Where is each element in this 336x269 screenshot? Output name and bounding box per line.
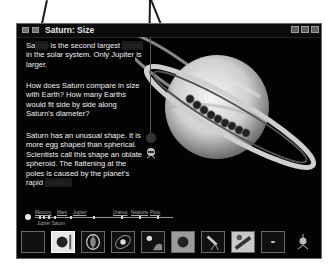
saturn-size-icon [52, 232, 74, 252]
timeline-dot [70, 216, 72, 219]
planet-timeline[interactable]: Mercury Mars Jupiter Uranus Neptune Plut… [23, 210, 173, 230]
hidden-word-link[interactable]: rotation. [45, 178, 72, 187]
spacecraft-icon [232, 232, 254, 252]
toolbar [21, 231, 319, 255]
pendant-ball [146, 133, 156, 143]
tool-blank-button[interactable] [21, 231, 45, 253]
timeline-dot [39, 216, 41, 219]
tool-moons-button[interactable] [141, 231, 165, 253]
tool-orbit-button[interactable] [111, 231, 135, 253]
close-button[interactable] [311, 26, 319, 33]
tool-saturn-size-button[interactable] [51, 231, 75, 253]
timeline-label-pluto[interactable]: Pluto [150, 210, 160, 215]
timeline-dot [121, 216, 123, 219]
timeline-sub-label: Jupiter Saturn [37, 221, 65, 226]
alien-guide-icon [295, 232, 311, 252]
telescope-icon [202, 232, 224, 252]
tool-spacecraft-button[interactable] [231, 231, 255, 253]
title-bar[interactable]: Saturn: Size [17, 24, 321, 38]
star-icon [262, 232, 284, 252]
tool-photo-button[interactable] [171, 231, 195, 253]
pendant-string [150, 37, 151, 137]
guide-pendant[interactable] [144, 37, 158, 167]
timeline-label-uranus[interactable]: Uranus [113, 210, 128, 215]
tool-guide-button[interactable] [295, 232, 311, 252]
timeline-label-neptune[interactable]: Neptune [131, 210, 148, 215]
timeline-dot [54, 216, 56, 219]
intro-paragraph: Saturn is the second largest planet in t… [26, 41, 144, 69]
alien-guide-icon[interactable] [145, 145, 157, 157]
timeline-label-mars[interactable]: Mars [57, 210, 67, 215]
shape-paragraph: Saturn has an unusual shape. It is more … [26, 131, 144, 187]
minimize-button[interactable] [291, 26, 299, 33]
timeline-label-mercury[interactable]: Mercury [35, 210, 51, 215]
planet-interior-icon [82, 232, 104, 252]
saturn-illustration [135, 37, 322, 197]
tool-telescope-button[interactable] [201, 231, 225, 253]
app-menu-icon[interactable] [22, 27, 29, 33]
app-window: Saturn: Size [16, 23, 322, 259]
hidden-word-link[interactable]: turn [35, 41, 48, 50]
timeline-dot [43, 216, 45, 219]
timeline-dot [93, 216, 95, 219]
moon-icon [142, 232, 164, 252]
app-menu-icon-2[interactable] [32, 27, 39, 33]
hidden-word-link[interactable]: planet [122, 41, 143, 50]
window-title: Saturn: Size [45, 25, 94, 35]
tool-interior-button[interactable] [81, 231, 105, 253]
planet-photo-icon [172, 232, 194, 252]
sun-icon[interactable] [25, 214, 31, 220]
timeline-label-jupiter[interactable]: Jupiter [73, 210, 87, 215]
timeline-dot [157, 216, 159, 219]
tool-stars-button[interactable] [261, 231, 285, 253]
orbit-icon [112, 232, 134, 252]
timeline-dot [48, 216, 50, 219]
timeline-dot [139, 216, 141, 219]
question-paragraph: How does Saturn compare in size with Ear… [26, 81, 144, 119]
maximize-button[interactable] [301, 26, 309, 33]
